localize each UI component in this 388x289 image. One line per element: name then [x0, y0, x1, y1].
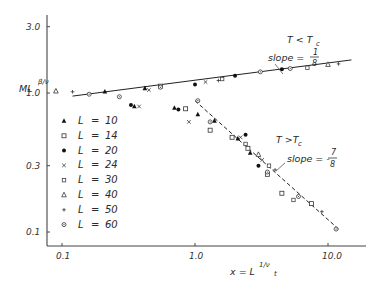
y-tick-label: 0.3 [26, 161, 41, 171]
data-point-l24 [239, 136, 243, 140]
legend-marker-icon [62, 223, 66, 227]
low-t-label: T < T [287, 34, 314, 45]
data-point-l24 [147, 88, 151, 92]
legend-marker-icon [62, 134, 66, 138]
legend-item: L=40 [62, 189, 118, 200]
legend-equals: = [91, 219, 99, 230]
legend: L=10L=14L=20L=24L=30L=40L=50L=60 [62, 115, 118, 230]
fit-line-high-temperature [195, 101, 339, 229]
data-point-l50 [71, 90, 75, 94]
legend-label: L [78, 174, 84, 185]
data-point-l14 [184, 107, 188, 111]
legend-marker-icon [62, 179, 65, 182]
data-point-l14 [230, 135, 234, 139]
legend-label: L [78, 159, 84, 170]
data-point-l60 [296, 195, 300, 199]
x-label-main: x = L [229, 266, 255, 277]
x-axis-label: x = L 1/ν t [229, 261, 277, 278]
x-label-sub: t [274, 270, 277, 278]
y-tick-label: 0.1 [26, 227, 40, 237]
data-point-l60 [158, 85, 162, 89]
x-label-sup: 1/ν [259, 261, 270, 269]
legend-value: 10 [105, 115, 118, 126]
data-point-l50 [217, 79, 221, 83]
data-point-l24 [204, 80, 208, 84]
data-point-l40 [54, 88, 59, 93]
data-point-l20 [193, 83, 197, 87]
annotation-low-temperature: T < T c slope = 1 8 [268, 34, 320, 74]
legend-equals: = [91, 115, 99, 126]
legend-item: L=14 [62, 130, 118, 141]
data-point-l10 [212, 118, 217, 123]
legend-equals: = [91, 189, 99, 200]
high-slope-label: slope = - [287, 153, 330, 164]
low-t-sub: c [316, 40, 320, 48]
data-point-l20 [256, 164, 260, 168]
legend-item: L=20 [62, 145, 118, 156]
data-point-l14 [309, 202, 313, 206]
legend-item: L=60 [62, 219, 118, 230]
y-tick-label: 3.0 [26, 22, 41, 32]
data-point-l30 [267, 164, 270, 167]
data-point-l20 [176, 108, 180, 112]
data-point-l40 [256, 152, 261, 157]
data-point-l30 [292, 198, 295, 201]
data-point-l60 [258, 70, 262, 74]
legend-item: L=50 [62, 204, 118, 215]
high-slope-leader [276, 163, 285, 171]
legend-marker-icon [62, 118, 67, 123]
high-t-sub: c [298, 140, 302, 148]
data-point-l20 [233, 74, 237, 78]
legend-item: L=24 [62, 159, 118, 170]
data-point-l60 [117, 95, 121, 99]
legend-label: L [78, 189, 84, 200]
legend-item: L=30 [62, 174, 117, 185]
legend-label: L [78, 115, 84, 126]
data-point-l14 [246, 146, 250, 150]
data-point-l60 [208, 120, 212, 124]
data-point-l50 [320, 210, 324, 214]
data-point-l60 [334, 227, 338, 231]
data-point-l20 [129, 103, 133, 107]
legend-item: L=10 [62, 115, 118, 126]
legend-value: 60 [105, 219, 118, 230]
legend-equals: = [91, 145, 99, 156]
legend-equals: = [91, 130, 99, 141]
scaling-plot: 0.11.010.03.01.00.30.1 ML β/ν x = L 1/ν … [0, 0, 388, 289]
legend-marker-icon [62, 164, 66, 168]
x-tick-label: 10.0 [322, 251, 342, 261]
data-point-l10 [248, 150, 253, 155]
data-point-l10 [172, 105, 177, 110]
data-point-l30 [306, 66, 309, 69]
data-point-l24 [260, 158, 264, 162]
data-point-l24 [137, 105, 141, 109]
legend-marker-icon [62, 192, 67, 197]
data-point-l14 [280, 191, 284, 195]
data-point-l14 [208, 128, 212, 132]
legend-label: L [78, 219, 84, 230]
legend-equals: = [91, 174, 99, 185]
legend-label: L [78, 204, 84, 215]
data-point-l20 [244, 133, 248, 137]
high-slope-num: 7 [331, 148, 337, 157]
legend-value: 30 [105, 174, 118, 185]
legend-value: 14 [105, 130, 118, 141]
y-label-sup: β/ν [38, 78, 49, 86]
legend-equals: = [91, 159, 99, 170]
fit-line-low-temperature [73, 60, 352, 96]
legend-marker-icon [62, 208, 66, 212]
y-label-main: ML [19, 83, 33, 94]
low-slope-label: slope = [268, 52, 304, 63]
data-point-l60 [196, 99, 200, 103]
legend-label: L [78, 145, 84, 156]
annotation-high-temperature: T >T c slope = - 7 8 [276, 134, 337, 171]
data-point-l30 [244, 142, 247, 145]
legend-marker-icon [62, 149, 66, 153]
legend-value: 50 [105, 204, 118, 215]
x-tick-label: 0.1 [56, 251, 70, 261]
legend-equals: = [91, 204, 99, 215]
data-point-l60 [288, 67, 292, 71]
data-point-l10 [196, 112, 201, 117]
high-t-label: T >T [276, 134, 300, 145]
legend-value: 20 [105, 145, 118, 156]
